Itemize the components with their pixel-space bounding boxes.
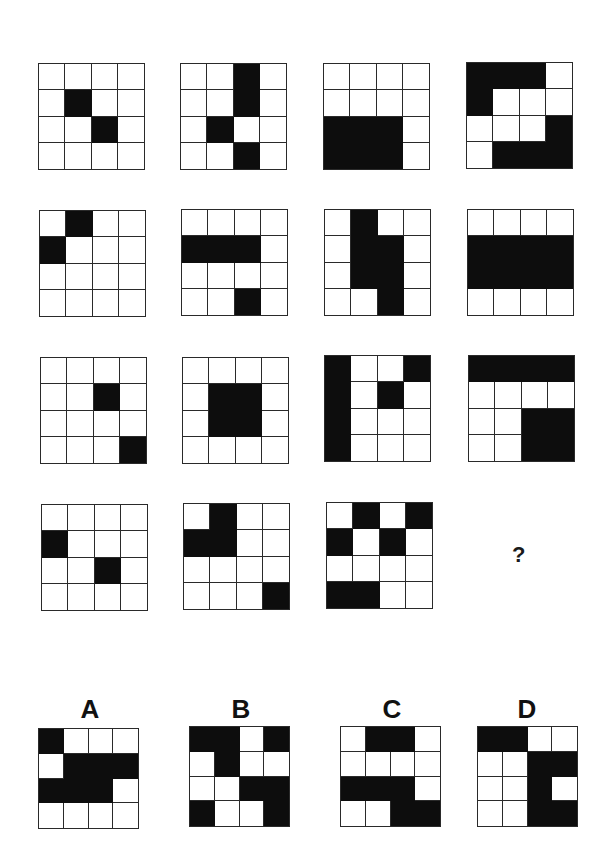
empty-square xyxy=(350,64,376,90)
empty-square xyxy=(495,382,521,408)
empty-square xyxy=(95,531,121,557)
empty-square xyxy=(93,290,119,316)
empty-square xyxy=(378,210,404,236)
empty-square xyxy=(67,411,93,437)
filled-square xyxy=(94,384,120,410)
option-label-a: A xyxy=(60,694,120,725)
matrix-cell-r2c2 xyxy=(181,209,288,316)
empty-square xyxy=(478,777,503,802)
empty-square xyxy=(182,289,208,315)
filled-square xyxy=(264,777,289,802)
empty-square xyxy=(468,210,494,236)
empty-square xyxy=(92,64,118,90)
empty-square xyxy=(235,210,261,236)
empty-square xyxy=(120,411,146,437)
empty-square xyxy=(415,752,440,777)
empty-square xyxy=(404,382,430,408)
empty-square xyxy=(403,143,429,169)
empty-square xyxy=(39,803,64,828)
filled-square xyxy=(548,356,574,382)
filled-square xyxy=(235,236,261,262)
option-label-b: B xyxy=(211,694,271,725)
empty-square xyxy=(64,803,89,828)
empty-square xyxy=(207,64,233,90)
empty-square xyxy=(262,437,288,463)
empty-square xyxy=(207,143,233,169)
empty-square xyxy=(351,382,377,408)
empty-square xyxy=(121,531,147,557)
empty-square xyxy=(113,803,138,828)
empty-square xyxy=(68,505,94,531)
option-a[interactable] xyxy=(38,728,139,829)
filled-square xyxy=(210,530,236,556)
filled-square xyxy=(350,143,376,169)
filled-square xyxy=(64,779,89,804)
empty-square xyxy=(263,557,289,583)
empty-square xyxy=(494,210,520,236)
filled-square xyxy=(208,236,234,262)
empty-square xyxy=(89,803,114,828)
missing-cell-question-mark: ? xyxy=(512,542,525,568)
empty-square xyxy=(366,801,391,826)
empty-square xyxy=(324,90,350,116)
filled-square xyxy=(391,727,416,752)
matrix-cell-r3c3 xyxy=(324,355,431,462)
filled-square xyxy=(521,236,547,262)
empty-square xyxy=(380,556,406,582)
filled-square xyxy=(209,411,235,437)
filled-square xyxy=(380,529,406,555)
filled-square xyxy=(207,117,233,143)
empty-square xyxy=(351,409,377,435)
matrix-cell-r3c2 xyxy=(182,357,289,464)
empty-square xyxy=(119,290,145,316)
filled-square xyxy=(520,142,546,168)
filled-square xyxy=(547,263,573,289)
filled-square xyxy=(350,117,376,143)
empty-square xyxy=(261,263,287,289)
empty-square xyxy=(119,264,145,290)
empty-square xyxy=(350,90,376,116)
empty-square xyxy=(39,90,65,116)
empty-square xyxy=(184,504,210,530)
empty-square xyxy=(66,290,92,316)
empty-square xyxy=(547,289,573,315)
empty-square xyxy=(327,503,353,529)
empty-square xyxy=(494,289,520,315)
matrix-cell-r1c3 xyxy=(323,63,430,170)
empty-square xyxy=(94,358,120,384)
filled-square xyxy=(240,777,265,802)
empty-square xyxy=(94,411,120,437)
filled-square xyxy=(325,409,351,435)
empty-square xyxy=(40,264,66,290)
filled-square xyxy=(552,801,577,826)
filled-square xyxy=(548,435,574,461)
empty-square xyxy=(378,409,404,435)
filled-square xyxy=(66,211,92,237)
empty-square xyxy=(351,435,377,461)
empty-square xyxy=(207,90,233,116)
filled-square xyxy=(467,89,493,115)
filled-square xyxy=(39,729,64,754)
empty-square xyxy=(403,90,429,116)
empty-square xyxy=(89,729,114,754)
empty-square xyxy=(341,752,366,777)
option-d[interactable] xyxy=(477,726,578,827)
filled-square xyxy=(494,263,520,289)
filled-square xyxy=(521,263,547,289)
filled-square xyxy=(528,801,553,826)
empty-square xyxy=(42,584,68,610)
option-b[interactable] xyxy=(189,726,290,827)
filled-square xyxy=(263,583,289,609)
option-c[interactable] xyxy=(340,726,441,827)
empty-square xyxy=(552,777,577,802)
filled-square xyxy=(353,503,379,529)
empty-square xyxy=(522,382,548,408)
option-label-c: C xyxy=(362,694,422,725)
filled-square xyxy=(406,503,432,529)
filled-square xyxy=(547,236,573,262)
filled-square xyxy=(210,504,236,530)
empty-square xyxy=(493,89,519,115)
empty-square xyxy=(190,752,215,777)
empty-square xyxy=(118,64,144,90)
empty-square xyxy=(552,727,577,752)
